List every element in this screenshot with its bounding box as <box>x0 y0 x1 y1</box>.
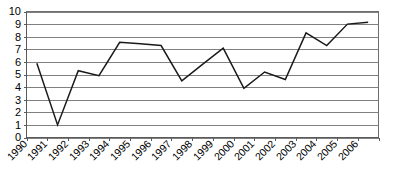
x-tick-label-1998: 1998 <box>169 137 194 162</box>
plot-area-border <box>27 12 379 138</box>
x-tick-label-2004: 2004 <box>293 137 318 162</box>
x-tick-label-2006: 2006 <box>335 137 360 162</box>
y-axis <box>24 12 27 139</box>
line-chart: 012345678910 199019911992199319941995199… <box>0 0 396 178</box>
y-tick-label-6: 6 <box>15 56 21 68</box>
y-tick-label-3: 3 <box>15 94 21 106</box>
x-tick-label-2001: 2001 <box>231 137 256 162</box>
y-tick-label-10: 10 <box>9 5 21 17</box>
x-tick-label-1991: 1991 <box>24 137 49 162</box>
x-tick-label-1996: 1996 <box>128 137 153 162</box>
x-tick-label-1997: 1997 <box>148 137 173 162</box>
y-tick-label-8: 8 <box>15 31 21 43</box>
x-tick-label-1993: 1993 <box>66 137 91 162</box>
x-tick-label-2003: 2003 <box>273 137 298 162</box>
x-axis-tick-labels: 1990199119921993199419951996199719981999… <box>4 137 360 162</box>
x-tick-label-2000: 2000 <box>211 137 236 162</box>
y-tick-label-5: 5 <box>15 68 21 80</box>
x-tick-label-1994: 1994 <box>86 137 111 162</box>
chart-canvas: 012345678910 199019911992199319941995199… <box>0 0 396 178</box>
x-tick-label-1992: 1992 <box>45 137 70 162</box>
y-tick-label-4: 4 <box>15 81 21 93</box>
y-tick-label-2: 2 <box>15 106 21 118</box>
y-tick-label-7: 7 <box>15 43 21 55</box>
x-tick-label-1999: 1999 <box>190 137 215 162</box>
x-tick-label-2005: 2005 <box>314 137 339 162</box>
y-tick-label-9: 9 <box>15 18 21 30</box>
y-axis-tick-labels: 012345678910 <box>9 5 21 143</box>
x-tick-label-1990: 1990 <box>4 137 29 162</box>
plot-border-rect <box>27 12 379 138</box>
x-tick-label-2002: 2002 <box>252 137 277 162</box>
gridlines <box>27 13 379 139</box>
y-tick-label-1: 1 <box>15 119 21 131</box>
x-tick-label-1995: 1995 <box>107 137 132 162</box>
